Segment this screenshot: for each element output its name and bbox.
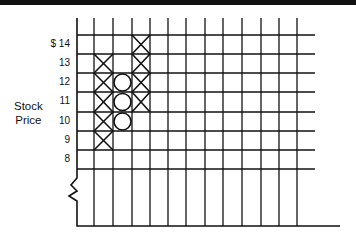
x-mark-icon	[132, 54, 150, 73]
x-mark-icon	[132, 92, 150, 112]
x-mark-icon	[132, 73, 150, 92]
o-mark-icon	[114, 113, 131, 130]
x-mark-icon	[132, 35, 150, 54]
x-mark-icon	[94, 54, 113, 73]
x-mark-icon	[94, 73, 113, 92]
pnf-chart	[0, 0, 356, 239]
o-mark-icon	[114, 74, 131, 91]
x-mark-icon	[94, 92, 113, 112]
x-mark-icon	[94, 131, 113, 150]
o-mark-icon	[114, 94, 131, 111]
x-mark-icon	[94, 112, 113, 131]
chart-grid	[77, 18, 315, 226]
